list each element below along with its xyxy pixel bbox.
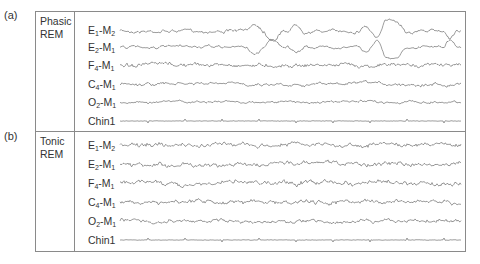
eeg-trace bbox=[120, 39, 461, 59]
eeg-traces bbox=[0, 0, 480, 264]
eeg-trace bbox=[120, 141, 461, 148]
eeg-trace bbox=[120, 80, 461, 87]
eeg-trace bbox=[120, 160, 461, 168]
eeg-trace bbox=[120, 19, 461, 42]
eeg-trace bbox=[120, 62, 461, 68]
eeg-trace bbox=[120, 238, 461, 242]
eeg-trace bbox=[120, 199, 461, 206]
eeg-trace bbox=[120, 119, 461, 123]
eeg-trace bbox=[120, 219, 461, 225]
eeg-trace bbox=[120, 179, 461, 187]
eeg-trace bbox=[120, 100, 461, 104]
